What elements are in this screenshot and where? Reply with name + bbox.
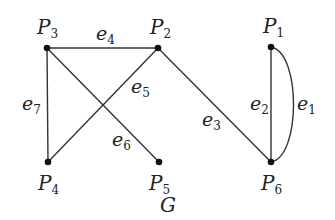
node-label-P2: P2 <box>149 15 171 41</box>
edge-label-e7: e7 <box>22 92 41 117</box>
graph-diagram: e1e2e3e4e5e6e7P1P2P3P4P5P6G <box>0 0 335 220</box>
node-P1 <box>268 44 275 51</box>
nodes <box>44 44 275 166</box>
node-label-P3: P3 <box>36 15 58 41</box>
graph-caption: G <box>160 193 176 217</box>
node-label-P1: P1 <box>262 14 284 40</box>
node-P6 <box>268 159 275 166</box>
edge-e7 <box>47 48 48 162</box>
edge-label-e5: e5 <box>131 75 150 100</box>
node-P3 <box>44 45 51 52</box>
edge-label-e2: e2 <box>250 92 269 117</box>
edge-label-e1: e1 <box>297 92 316 117</box>
edge-label-e3: e3 <box>202 108 221 133</box>
node-P5 <box>156 159 163 166</box>
node-P2 <box>155 45 162 52</box>
node-label-P6: P6 <box>260 171 282 197</box>
graph-svg: e1e2e3e4e5e6e7P1P2P3P4P5P6G <box>0 0 335 220</box>
node-label-P4: P4 <box>37 171 59 197</box>
edge-label-e4: e4 <box>96 22 115 47</box>
edge-label-e6: e6 <box>112 128 131 153</box>
edge-e1 <box>271 47 294 162</box>
node-P4 <box>45 159 52 166</box>
